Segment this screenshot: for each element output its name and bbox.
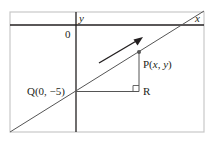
- arrow-up-right-icon: [99, 37, 143, 63]
- right-angle-marker: [133, 86, 139, 92]
- coordinate-diagram: y x 0 P(x, y) R Q(0, −5): [0, 0, 211, 146]
- point-r-label: R: [143, 85, 151, 97]
- line-qp: [10, 11, 204, 132]
- point-q-label: Q(0, −5): [27, 85, 65, 98]
- y-axis-label: y: [78, 12, 84, 24]
- point-p-label: P(x, y): [143, 58, 172, 71]
- origin-label: 0: [65, 28, 71, 40]
- point-p: [137, 50, 141, 54]
- x-axis-label: x: [194, 12, 200, 24]
